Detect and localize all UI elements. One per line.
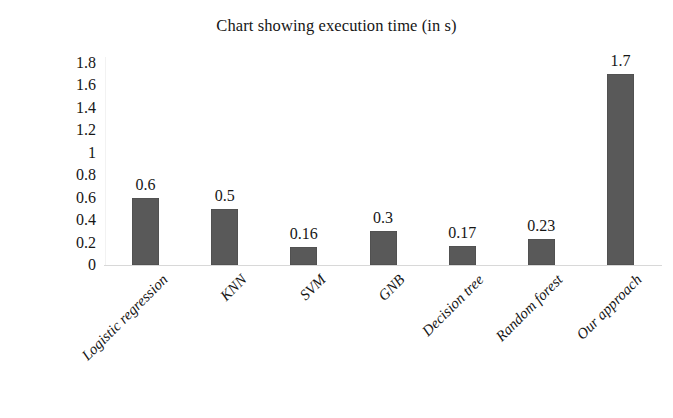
x-axis-tick-labels: Logistic regressionKNNSVMGNBDecision tre… <box>106 272 660 418</box>
x-axis-tick-label: Our approach <box>574 272 645 343</box>
x-axis-tick-label: Decision tree <box>420 272 487 339</box>
x-axis-baseline <box>104 265 662 266</box>
x-axis-tick-label: Random forest <box>494 272 566 344</box>
y-axis-tick-label: 0.2 <box>52 235 96 251</box>
y-axis-tick-label: 0.4 <box>52 212 96 228</box>
chart-figure: Chart showing execution time (in s) 00.2… <box>0 0 673 418</box>
x-axis-tick-text: Random forest <box>494 272 566 344</box>
bar-value-label: 0.3 <box>373 210 393 226</box>
y-axis-tick-label: 1.6 <box>52 77 96 93</box>
y-axis-tick-label: 0.6 <box>52 190 96 206</box>
bar-group: 0.6 <box>132 55 159 265</box>
bar <box>449 246 476 265</box>
x-axis-tick-label: KNN <box>217 272 249 304</box>
x-axis-tick-text: Decision tree <box>420 272 487 339</box>
bar <box>370 231 397 265</box>
bar-group: 1.7 <box>607 55 634 265</box>
y-axis-tick-label: 1.4 <box>52 100 96 116</box>
x-axis-tick-label: GNB <box>376 272 408 304</box>
chart-title: Chart showing execution time (in s) <box>0 16 673 36</box>
bar-group: 0.17 <box>449 55 476 265</box>
bar <box>607 74 634 265</box>
x-axis-tick-text: KNN <box>217 272 249 304</box>
bar <box>528 239 555 265</box>
x-axis-tick-label: SVM <box>297 272 328 303</box>
bar-value-label: 0.6 <box>136 177 156 193</box>
bar-value-label: 0.5 <box>215 188 235 204</box>
bar <box>290 247 317 265</box>
bar-group: 0.23 <box>528 55 555 265</box>
y-axis-tick-label: 0.8 <box>52 167 96 183</box>
bar-value-label: 0.17 <box>448 225 476 241</box>
bar-group: 0.3 <box>370 55 397 265</box>
x-axis-tick-text: GNB <box>376 272 408 304</box>
bar-value-label: 0.16 <box>290 226 318 242</box>
bar <box>211 209 238 265</box>
y-axis-tick-label: 1.8 <box>52 55 96 71</box>
x-axis-tick-text: Our approach <box>574 272 645 343</box>
bar-value-label: 1.7 <box>610 53 630 69</box>
bar-group: 0.16 <box>290 55 317 265</box>
plot-area: 0.60.50.160.30.170.231.7 <box>106 55 660 265</box>
bar <box>132 198 159 265</box>
x-axis-tick-text: SVM <box>297 272 328 303</box>
bar-group: 0.5 <box>211 55 238 265</box>
y-axis-tick-label: 1.2 <box>52 122 96 138</box>
y-axis-tick-label: 1 <box>52 145 96 161</box>
y-axis-tick-label: 0 <box>52 257 96 273</box>
bar-value-label: 0.23 <box>527 218 555 234</box>
